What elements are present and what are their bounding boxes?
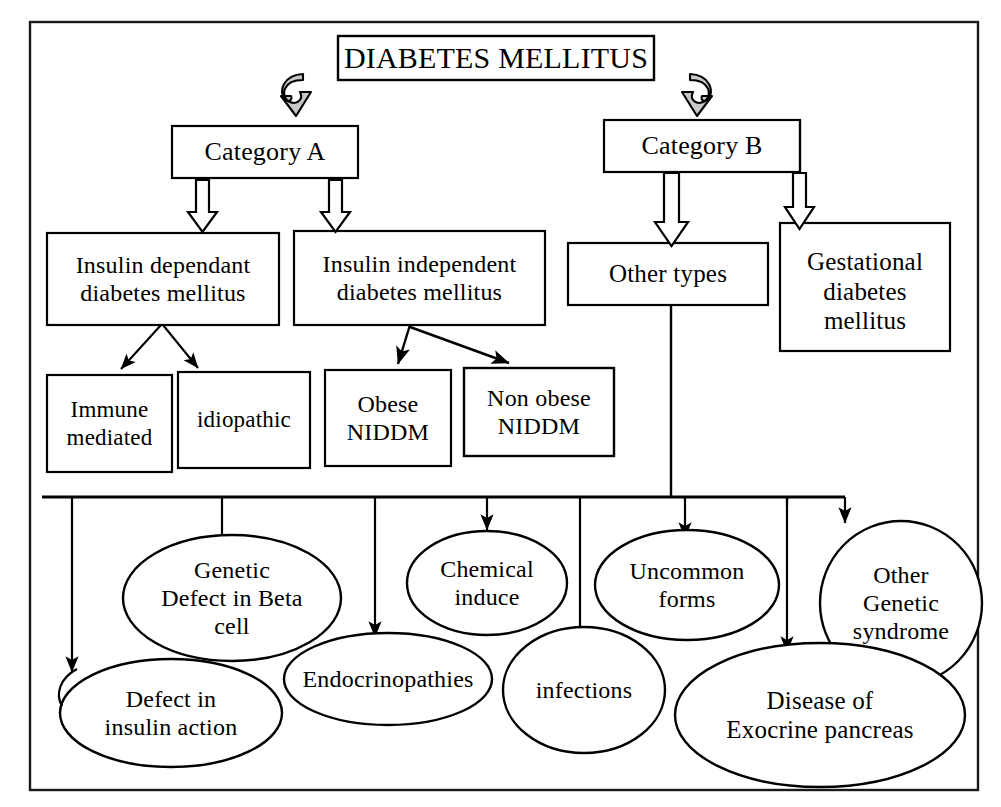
node-immune-mediated-box[interactable] [47, 375, 172, 472]
node-uncommon-forms-ellipse[interactable] [595, 530, 779, 640]
edge-root-to-category-b [682, 74, 712, 116]
node-gestational-box[interactable] [780, 223, 950, 351]
diagram-canvas: DIABETES MELLITUS Category A Category B … [0, 0, 1001, 807]
edge-iddm-to-idiopathic [163, 325, 198, 368]
diagram-vector-layer [0, 0, 1001, 807]
node-category-a-box[interactable] [172, 126, 358, 178]
node-obese-niddm-box[interactable] [325, 370, 451, 466]
node-other-types-box[interactable] [568, 243, 768, 305]
edge-root-to-category-a [281, 74, 311, 116]
node-iddm-box[interactable] [47, 233, 279, 325]
edge-category-b-to-other-types [655, 173, 688, 246]
edge-category-a-to-iddm [188, 180, 217, 232]
edge-niddm-to-non-obese-niddm [410, 327, 509, 363]
node-endocrinopathies-ellipse[interactable] [284, 633, 492, 725]
node-category-b-box[interactable] [604, 120, 800, 172]
node-genetic-defect-beta-cell-ellipse[interactable] [123, 535, 341, 661]
node-chemical-induce-ellipse[interactable] [407, 531, 567, 635]
node-non-obese-niddm-box[interactable] [464, 368, 614, 456]
node-defect-insulin-action-ellipse[interactable] [60, 659, 282, 767]
node-infections-ellipse[interactable] [503, 627, 665, 753]
edge-niddm-to-obese-niddm [398, 325, 410, 364]
node-disease-exocrine-pancreas-ellipse[interactable] [675, 643, 965, 787]
edge-category-a-to-niddm [321, 180, 350, 232]
node-idiopathic-box[interactable] [178, 372, 310, 468]
edge-category-b-to-gestational [785, 173, 814, 229]
node-niddm-box[interactable] [294, 231, 545, 325]
edge-iddm-to-immune-mediated [121, 325, 161, 369]
node-root-box[interactable] [338, 36, 654, 80]
